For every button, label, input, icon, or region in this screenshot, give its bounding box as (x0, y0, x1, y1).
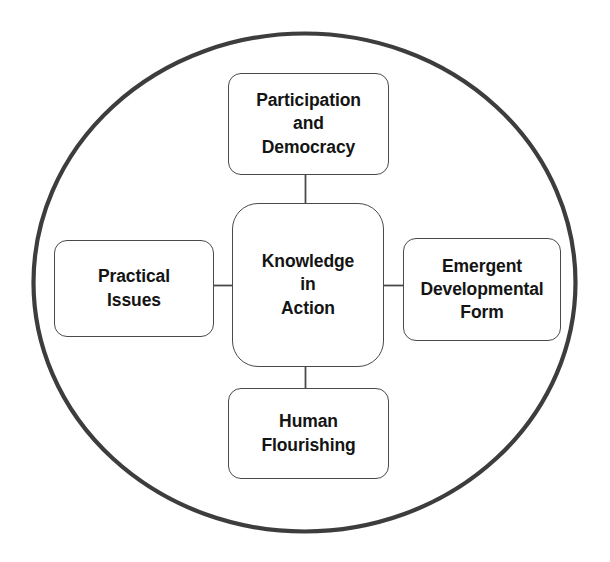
node-participation-and-democracy[interactable]: Participation and Democracy (228, 73, 389, 175)
node-label: Knowledge in Action (233, 250, 383, 319)
node-knowledge-in-action[interactable]: Knowledge in Action (232, 203, 384, 367)
diagram-canvas: Participation and Democracy Practical Is… (0, 0, 610, 562)
node-label: Human Flourishing (229, 410, 388, 456)
node-emergent-developmental-form[interactable]: Emergent Developmental Form (403, 238, 561, 341)
node-label: Participation and Democracy (229, 89, 388, 158)
node-human-flourishing[interactable]: Human Flourishing (228, 388, 389, 479)
node-label: Emergent Developmental Form (404, 255, 560, 324)
node-label: Practical Issues (55, 265, 213, 311)
node-practical-issues[interactable]: Practical Issues (54, 240, 214, 337)
